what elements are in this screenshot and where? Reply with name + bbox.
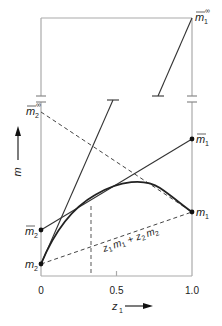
point-m2 — [39, 262, 44, 267]
x-axis-label-group: z 1 — [111, 300, 153, 314]
label-m2: m 2 — [25, 258, 38, 272]
svg-text:z: z — [111, 300, 118, 312]
point-m2-bar — [39, 228, 44, 233]
svg-text:m: m — [11, 167, 23, 176]
svg-text:∞: ∞ — [205, 7, 210, 14]
svg-text:2: 2 — [35, 112, 39, 119]
svg-text:1: 1 — [205, 140, 209, 147]
ideal-line-label: z1m1+z2m2 — [100, 225, 160, 256]
svg-text:m: m — [196, 133, 205, 145]
svg-text:2: 2 — [34, 265, 38, 272]
label-m2-bar: m 2 — [25, 225, 38, 239]
svg-text:1: 1 — [205, 213, 209, 220]
svg-text:∞: ∞ — [36, 101, 41, 108]
y-arrow-head-icon — [15, 126, 21, 136]
y-axis-label-group: m — [11, 126, 23, 177]
right-axis-break — [187, 96, 197, 102]
svg-text:2: 2 — [34, 232, 38, 239]
svg-text:m: m — [26, 105, 35, 117]
x-arrow-head-icon — [143, 303, 153, 309]
x-tick-label-0: 0 — [38, 285, 44, 296]
point-m1-bar — [190, 137, 195, 142]
svg-text:z1m1+z2m2: z1m1+z2m2 — [100, 225, 160, 256]
label-m1: m 1 — [196, 206, 209, 220]
tangent-line-m1-inf — [158, 18, 192, 96]
point-m1 — [190, 210, 195, 215]
svg-text:m: m — [195, 11, 204, 23]
dashed-line-m2inf-m1 — [41, 112, 192, 212]
svg-text:m: m — [196, 206, 205, 218]
label-m2-inf: m 2 ∞ — [26, 101, 41, 119]
tangent-line-m2-steep — [41, 100, 113, 264]
x-tick-label-05: 0.5 — [110, 285, 124, 296]
svg-text:m: m — [25, 225, 34, 237]
label-m1-bar: m 1 — [196, 133, 209, 147]
svg-text:m: m — [25, 258, 34, 270]
diagram-canvas: m 1 ∞ m 2 ∞ m 1 m 1 m 2 m 2 z1m1+z2m2 — [0, 0, 222, 326]
label-m1-inf: m 1 ∞ — [195, 7, 210, 25]
svg-text:1: 1 — [204, 18, 208, 25]
mixture-curve — [41, 182, 192, 264]
x-tick-label-1: 1.0 — [185, 285, 199, 296]
svg-text:1: 1 — [119, 307, 123, 314]
